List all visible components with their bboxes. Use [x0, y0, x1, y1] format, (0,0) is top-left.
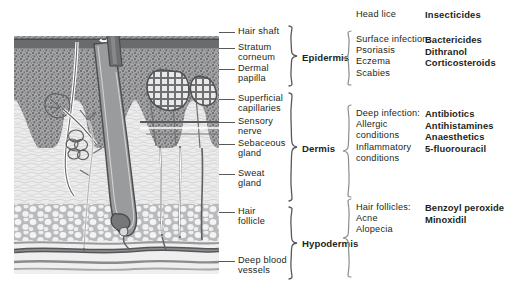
label-hair-shaft: Hair shaft — [238, 26, 279, 36]
brace-hypodermis — [287, 206, 299, 280]
conditions-follicle: Hair follicles: Acne Alopecia — [356, 202, 411, 236]
leader-line-hair-follicle — [219, 212, 235, 213]
label-sebaceous-gland: Sebaceous gland — [238, 138, 286, 159]
leader-line-dermal-papilla — [219, 69, 235, 70]
leader-line-sensory-nerve — [219, 122, 235, 123]
label-superficial-capillaries: Superficial capillaries — [238, 93, 283, 114]
brace-follicle-treatments — [342, 198, 353, 278]
leader-line-sebaceous-gland — [219, 144, 235, 145]
leader-line-sweat-gland — [219, 174, 235, 175]
skin-cross-section-illustration — [14, 36, 219, 274]
leader-line-stratum-corneum — [219, 48, 235, 49]
leader-line-deep-blood-vessels — [219, 261, 235, 262]
layer-name-dermis: Dermis — [302, 143, 335, 154]
leader-line-hair-shaft — [219, 32, 235, 33]
skin-structure-figure: Hair shaft Stratum corneum Dermal papill… — [0, 0, 519, 289]
label-dermal-papilla: Dermal papilla — [238, 63, 269, 84]
drugs-epidermis: Bactericides Dithranol Corticosteroids — [425, 34, 496, 69]
drugs-follicle: Benzoyl peroxide Minoxidil — [425, 202, 504, 225]
brace-dermis-treatments — [342, 104, 353, 198]
header-treatment: Insecticides — [425, 9, 481, 20]
conditions-epidermis: Surface infection: Psoriasis Eczema Scab… — [356, 34, 430, 79]
label-stratum-corneum: Stratum corneum — [238, 42, 275, 63]
label-deep-blood-vessels: Deep blood vessels — [238, 255, 287, 276]
leader-line-superficial-capillaries — [219, 99, 235, 100]
brace-epidermis-treatments — [342, 30, 353, 86]
header-condition: Head lice — [356, 9, 396, 19]
drugs-dermis: Antibiotics Antihistamines Anaesthetics … — [425, 108, 494, 154]
brace-dermis — [287, 92, 299, 202]
label-hair-follicle: Hair follicle — [238, 206, 265, 227]
conditions-dermis: Deep infection: Allergic conditions Infl… — [356, 108, 420, 164]
label-sweat-gland: Sweat gland — [238, 168, 264, 189]
label-sensory-nerve: Sensory nerve — [238, 116, 273, 137]
brace-epidermis — [287, 25, 299, 87]
